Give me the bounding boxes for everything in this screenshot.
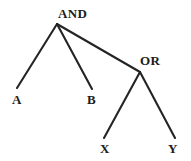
edge-or-to-x <box>104 72 140 138</box>
tree-edges-canvas <box>0 0 191 161</box>
node-label-or: OR <box>140 54 160 67</box>
node-label-and: AND <box>58 7 87 20</box>
node-label-b: B <box>87 93 96 106</box>
node-label-a: A <box>12 93 22 106</box>
node-label-y: Y <box>168 142 178 155</box>
edge-and-to-a <box>17 24 57 88</box>
node-label-x: X <box>100 142 110 155</box>
logic-tree-diagram: AND OR A B X Y <box>0 0 191 161</box>
edge-or-to-y <box>140 72 175 138</box>
